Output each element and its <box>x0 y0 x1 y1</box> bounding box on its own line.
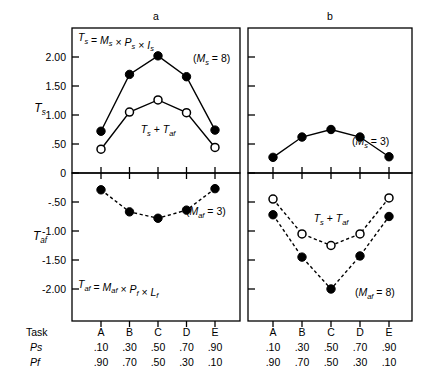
data-point-filled <box>356 252 364 260</box>
panel-b-top <box>248 28 412 173</box>
ps-value: .90 <box>382 341 397 353</box>
ps-value: .10 <box>266 341 281 353</box>
y-axis-name-ts: Ts <box>34 101 45 117</box>
annotation-maf-8-text: (Maf = 8) <box>355 286 395 301</box>
pf-value: .70 <box>295 356 310 368</box>
data-point-filled <box>327 285 335 293</box>
y-tick-label: -2.00 <box>42 283 66 295</box>
data-point-filled <box>154 214 162 222</box>
formula-ts-text: Ts = Ms × Ps × Is <box>78 31 154 53</box>
ps-value: .30 <box>122 341 137 353</box>
data-point-open <box>298 230 306 238</box>
data-point-filled <box>211 184 219 192</box>
data-point-open <box>211 143 219 151</box>
ps-value: .10 <box>94 341 109 353</box>
task-label: A <box>97 326 104 338</box>
data-point-filled <box>125 208 133 216</box>
row-header-ps: Ps <box>30 341 43 353</box>
panel-frames <box>72 28 412 321</box>
task-label: A <box>269 326 276 338</box>
data-point-open <box>126 108 134 116</box>
y-axis-bottom: -.50-1.00-1.50-2.00 <box>42 196 79 295</box>
task-label: D <box>356 326 364 338</box>
data-point-open <box>154 96 162 104</box>
ps-value: .70 <box>179 341 194 353</box>
annotation-ms-3-text: (Ms = 3) <box>352 135 389 150</box>
data-point-filled <box>385 212 393 220</box>
data-point-open <box>183 109 191 117</box>
data-point-filled <box>385 153 393 161</box>
task-label: C <box>327 326 335 338</box>
panel-letters: ab <box>153 10 333 22</box>
y-axis-right-bottom <box>248 202 255 289</box>
label-ts-plus-taf-bottom-text: Ts + Taf <box>314 212 350 227</box>
pf-value: .70 <box>122 356 137 368</box>
series-line-filled <box>273 215 389 289</box>
series-line-filled <box>101 56 215 131</box>
y-tick-label: 1.50 <box>46 80 67 92</box>
annotation-ms-8-text: (Ms = 8) <box>193 52 230 67</box>
panel-letter-b: b <box>327 10 333 22</box>
data-point-open <box>356 230 364 238</box>
pf-value: .30 <box>179 356 194 368</box>
data-point-filled <box>269 211 277 219</box>
data-point-filled <box>125 70 133 78</box>
pf-value: .90 <box>266 356 281 368</box>
x-axis-label-table: TaskPsPfA.10.90B.30.70C.50.50D.70.30E.90… <box>26 326 396 368</box>
label-ts-plus-taf-bottom: Ts + Taf <box>314 212 350 227</box>
annotation-maf-8: (Maf = 8) <box>355 286 395 301</box>
pf-value: .30 <box>353 356 368 368</box>
y-axis-right-top <box>248 57 255 173</box>
row-header-pf: Pf <box>30 356 41 368</box>
data-point-open <box>269 195 277 203</box>
y-tick-label: -.50 <box>48 196 66 208</box>
row-header-task: Task <box>26 326 48 338</box>
ps-value: .90 <box>208 341 223 353</box>
task-label: B <box>298 326 305 338</box>
label-ts-plus-taf-top: Ts + Taf <box>141 123 177 138</box>
y-tick-label: -1.50 <box>42 254 66 266</box>
x-axis-ticks <box>101 167 389 327</box>
data-point-open <box>385 194 393 202</box>
data-point-filled <box>327 125 335 133</box>
pf-value: .50 <box>324 356 339 368</box>
panel-letter-a: a <box>153 10 159 22</box>
data-point-filled <box>97 186 105 194</box>
task-label: E <box>211 326 218 338</box>
pf-value: .50 <box>151 356 166 368</box>
series-panel-a-top <box>97 52 219 154</box>
ps-value: .50 <box>324 341 339 353</box>
annotation-ms-3: (Ms = 3) <box>352 135 389 150</box>
series-panel-b-bottom <box>269 194 393 293</box>
pf-value: .90 <box>94 356 109 368</box>
pf-value: .10 <box>208 356 223 368</box>
data-point-filled <box>211 126 219 134</box>
formula-taf-text: Taf = Maf × Pf × Lf <box>78 278 159 300</box>
axis-names: TsTaf <box>33 101 48 245</box>
data-point-filled <box>182 73 190 81</box>
ps-value: .50 <box>151 341 166 353</box>
annotation-maf-3: (Maf = 3) <box>186 205 226 220</box>
data-point-filled <box>298 133 306 141</box>
task-label: D <box>183 326 191 338</box>
data-point-filled <box>269 153 277 161</box>
label-ts-plus-taf-top-text: Ts + Taf <box>141 123 177 138</box>
figure-root: ab0.501.001.502.00-.50-1.00-1.50-2.00TsT… <box>0 0 430 380</box>
annotation-maf-3-text: (Maf = 3) <box>186 205 226 220</box>
task-label: E <box>385 326 392 338</box>
y-axis-top: 0.501.001.502.00 <box>46 51 79 179</box>
y-tick-label: .50 <box>51 138 66 150</box>
formula-taf: Taf = Maf × Pf × Lf <box>78 278 159 300</box>
data-point-open <box>97 145 105 153</box>
ps-value: .30 <box>295 341 310 353</box>
ps-value: .70 <box>353 341 368 353</box>
scientific-figure: ab0.501.001.502.00-.50-1.00-1.50-2.00TsT… <box>0 0 430 380</box>
task-label: C <box>154 326 162 338</box>
y-tick-label: 2.00 <box>46 51 67 63</box>
data-point-filled <box>97 127 105 135</box>
task-label: B <box>126 326 133 338</box>
y-tick-label: 1.00 <box>46 109 67 121</box>
data-point-open <box>327 242 335 250</box>
formula-ts: Ts = Ms × Ps × Is <box>78 31 154 53</box>
data-point-filled <box>298 253 306 261</box>
